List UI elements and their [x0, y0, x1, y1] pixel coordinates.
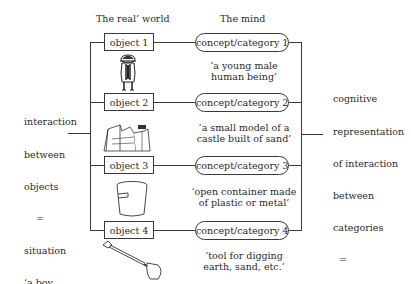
- object-3-box: object 3: [104, 156, 154, 174]
- right-bracket-vertical: [301, 42, 302, 231]
- description-1: ‘a young male human being’: [190, 60, 298, 82]
- row1-left-connector: [90, 42, 104, 43]
- row3-left-connector: [90, 165, 104, 166]
- context-line: of interaction: [333, 159, 404, 170]
- object-4-box: object 4: [104, 221, 154, 239]
- description-3-line-2: of plastic or metal’: [190, 197, 298, 208]
- context-line: between: [333, 191, 404, 202]
- context-line: representation: [333, 127, 404, 138]
- description-3: ‘open container made of plastic or metal…: [190, 186, 298, 208]
- description-3-line-1: ‘open container made: [190, 186, 298, 197]
- context-label: cognitive representation of interaction …: [333, 73, 404, 284]
- concept-2-pill: concept/category 2: [195, 93, 289, 112]
- row2-left-connector: [90, 102, 104, 103]
- sandcastle-icon: [100, 117, 154, 153]
- spade-icon: [100, 239, 166, 283]
- description-2: ‘a small model of a castle built of sand…: [190, 122, 298, 144]
- description-1-line-1: ‘a young male: [190, 60, 298, 71]
- concept-1-pill: concept/category 1: [195, 33, 289, 52]
- context-line: categories: [333, 223, 404, 234]
- concept-3-pill: concept/category 3: [195, 156, 289, 175]
- description-2-line-1: ‘a small model of a: [190, 122, 298, 133]
- concept-4-pill: concept/category 4: [195, 221, 289, 240]
- description-4-line-1: ‘tool for digging: [190, 250, 298, 261]
- header-real-world: The real’ world: [96, 13, 170, 24]
- row4-link: [154, 230, 195, 231]
- right-bracket-stub: [301, 134, 323, 135]
- situation-line: objects: [24, 182, 77, 193]
- object-2-box: object 2: [104, 93, 154, 111]
- description-2-line-2: castle built of sand’: [190, 133, 298, 144]
- row2-link: [154, 102, 195, 103]
- boy-icon: [116, 52, 140, 92]
- situation-line: ‘a boy: [24, 278, 77, 284]
- row3-right-connector: [289, 165, 301, 166]
- description-4: ‘tool for digging earth, sand, etc.’: [190, 250, 298, 272]
- bucket-icon: [114, 180, 150, 218]
- row1-right-connector: [289, 42, 301, 43]
- header-mind: The mind: [220, 13, 265, 24]
- situation-line: =: [24, 214, 77, 225]
- row1-link: [154, 42, 195, 43]
- situation-line: situation: [24, 246, 77, 257]
- situation-line: interaction: [24, 117, 77, 128]
- row4-right-connector: [289, 230, 301, 231]
- situation-label: interaction between objects = situation …: [24, 96, 77, 284]
- situation-line: between: [24, 150, 77, 161]
- row3-link: [154, 165, 195, 166]
- description-1-line-2: human being’: [190, 71, 298, 82]
- row4-left-connector: [90, 230, 104, 231]
- row2-right-connector: [289, 102, 301, 103]
- left-bracket-vertical: [90, 42, 91, 231]
- context-line: =: [333, 255, 404, 266]
- context-line: cognitive: [333, 94, 404, 105]
- object-1-box: object 1: [104, 33, 154, 51]
- description-4-line-2: earth, sand, etc.’: [190, 261, 298, 272]
